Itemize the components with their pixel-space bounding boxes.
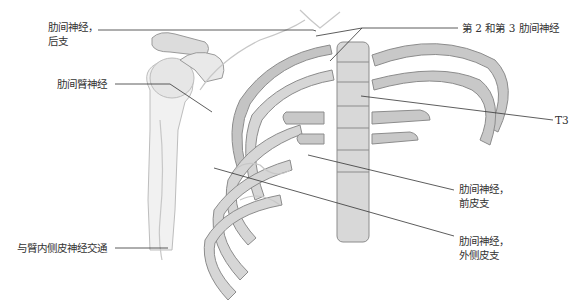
vertebral-column xyxy=(337,42,369,242)
label-posterior-branch: 肋间神经， 后支 xyxy=(48,20,98,48)
label-line: T3 xyxy=(555,113,569,127)
label-2nd-3rd-intercostal: 第 2 和第 3 肋间神经 xyxy=(462,21,559,35)
label-line: 外侧皮支 xyxy=(459,248,509,262)
label-lateral-cutaneous: 肋间神经， 外侧皮支 xyxy=(459,234,509,262)
label-line: 肋间神经， xyxy=(459,182,509,196)
label-line: 前皮支 xyxy=(459,196,509,210)
label-line: 肋间神经， xyxy=(459,234,509,248)
label-line: 第 2 和第 3 肋间神经 xyxy=(462,21,559,35)
leader-anterior-cutaneous xyxy=(308,155,454,190)
label-intercostobrachial: 肋间臂神经 xyxy=(57,77,107,91)
humerus-bone xyxy=(147,58,194,250)
label-line: 肋间神经， xyxy=(48,20,98,34)
label-line: 后支 xyxy=(48,34,98,48)
leader-lateral-cutaneous xyxy=(214,168,454,236)
label-medial-cutaneous-communication: 与臂内侧皮神经交通 xyxy=(17,241,107,255)
label-line: 与臂内侧皮神经交通 xyxy=(17,241,107,255)
label-line: 肋间臂神经 xyxy=(57,77,107,91)
ribs-right xyxy=(283,44,508,145)
label-t3: T3 xyxy=(555,113,569,127)
ribs-left xyxy=(204,45,334,300)
label-anterior-cutaneous: 肋间神经， 前皮支 xyxy=(459,182,509,210)
